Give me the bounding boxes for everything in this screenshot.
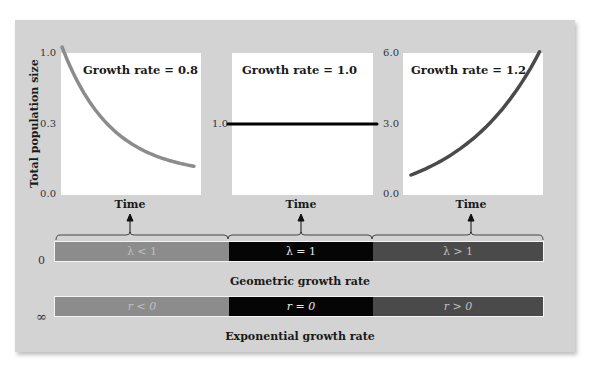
curve-growth [411, 52, 540, 175]
exponential-caption: Exponential growth rate [150, 330, 450, 343]
curve-decline [62, 47, 194, 166]
segment-negative: r < 0 [55, 297, 229, 316]
geometric-rate-bar: λ < 1 λ = 1 λ > 1 [54, 241, 544, 262]
exponential-left-value: ∞ [36, 309, 47, 324]
segment-stable: λ = 1 [229, 242, 373, 261]
arrow-icon [468, 214, 474, 233]
segment-growth: λ > 1 [373, 242, 543, 261]
geometric-caption: Geometric growth rate [150, 275, 450, 288]
geometric-left-value: 0 [38, 254, 45, 267]
exponential-rate-bar: r < 0 r = 0 r > 0 [54, 296, 544, 317]
brace-stable [228, 232, 372, 239]
arrow-icon [127, 214, 133, 233]
arrow-icon [298, 214, 304, 233]
brace-decline [56, 232, 228, 240]
segment-positive: r > 0 [373, 297, 543, 316]
segment-decline: λ < 1 [55, 242, 229, 261]
segment-zero: r = 0 [229, 297, 373, 316]
brace-growth [372, 232, 543, 240]
